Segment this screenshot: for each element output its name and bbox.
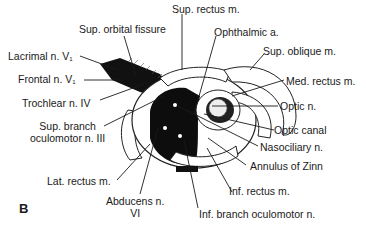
label-sup-branch-oculomotor: Sup. branchoculomotor n. III — [30, 120, 105, 144]
label-inf-branch-oculomotor: Inf. branch oculomotor n. — [199, 208, 315, 220]
anatomy-figure: Sup. rectus m. Sup. orbital fissure Opht… — [0, 0, 366, 229]
label-optic-nerve: Optic n. — [280, 100, 316, 112]
label-sup-rectus: Sup. rectus m. — [172, 3, 240, 15]
label-sup-oblique: Sup. oblique m. — [263, 45, 336, 57]
label-lat-rectus: Lat. rectus m. — [47, 175, 111, 187]
label-frontal-nerve: Frontal n. V1 — [18, 73, 76, 88]
label-annulus-of-zinn: Annulus of Zinn — [250, 160, 323, 172]
label-nasociliary-nerve: Nasociliary n. — [260, 141, 323, 153]
label-optic-canal: Optic canal — [274, 124, 327, 136]
label-sup-orbital-fissure: Sup. orbital fissure — [79, 23, 166, 35]
label-lacrimal-nerve: Lacrimal n. V1 — [8, 50, 73, 65]
orbital-apex-illustration — [0, 0, 366, 229]
label-inf-rectus: Inf. rectus m. — [229, 185, 290, 197]
label-trochlear-nerve: Trochlear n. IV — [22, 97, 90, 109]
label-med-rectus: Med. rectus m. — [286, 75, 355, 87]
panel-letter: B — [19, 201, 28, 216]
label-abducens-nerve: Abducens n.VI — [106, 195, 164, 219]
label-ophthalmic-artery: Ophthalmic a. — [214, 26, 279, 38]
